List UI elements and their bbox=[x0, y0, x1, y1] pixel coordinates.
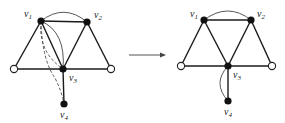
node-v2 bbox=[83, 18, 90, 25]
edge-v2-v3 bbox=[63, 22, 87, 69]
label-v1: v1 bbox=[24, 8, 32, 21]
transform-arrow bbox=[129, 53, 166, 58]
node-v1 bbox=[37, 17, 44, 24]
arrow-head-icon bbox=[160, 53, 166, 58]
node-hollow-right bbox=[107, 65, 114, 72]
edge-v1-v3 bbox=[204, 20, 228, 66]
label-v4: v4 bbox=[224, 106, 232, 119]
label-v3: v3 bbox=[69, 72, 77, 85]
edge-v2-b bbox=[251, 20, 272, 66]
label-v3: v3 bbox=[233, 69, 241, 82]
node-hollow-right bbox=[268, 62, 275, 69]
node-v3 bbox=[59, 65, 66, 72]
left-graph: v1 v2 v3 v4 bbox=[10, 8, 114, 122]
edge-v1-a bbox=[181, 20, 204, 66]
edge-v1-a bbox=[14, 21, 41, 69]
node-v1 bbox=[200, 16, 207, 23]
edge-v1-v2 bbox=[41, 21, 87, 22]
node-v4 bbox=[60, 100, 67, 107]
label-v2: v2 bbox=[257, 8, 265, 21]
node-hollow-left bbox=[10, 65, 17, 72]
edge-v2-b bbox=[87, 22, 111, 69]
node-hollow-left bbox=[177, 62, 184, 69]
right-graph: v1 v2 v3 v4 bbox=[177, 8, 275, 119]
label-v2: v2 bbox=[94, 9, 102, 22]
label-v4: v4 bbox=[60, 109, 68, 122]
node-v3 bbox=[224, 62, 231, 69]
graph-diagram: v1 v2 v3 v4 v1 v2 v3 v4 bbox=[0, 0, 285, 123]
edge-v2-v3 bbox=[228, 20, 251, 66]
curve-v1-v2 bbox=[204, 11, 251, 20]
node-v2 bbox=[247, 16, 254, 23]
curve-v3-v4 bbox=[220, 66, 228, 101]
node-v4 bbox=[224, 97, 231, 104]
label-v1: v1 bbox=[190, 8, 198, 21]
